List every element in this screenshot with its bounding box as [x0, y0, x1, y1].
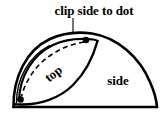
side-panel-label: side — [107, 73, 129, 88]
lower-left-dot-icon — [17, 96, 24, 103]
apex-dot-icon — [83, 37, 90, 44]
diagram-canvas: clip side to dot top side — [0, 0, 164, 122]
caption-label: clip side to dot — [55, 3, 135, 18]
top-panel-label: top — [41, 62, 64, 85]
dome-pattern-diagram: clip side to dot top side — [0, 0, 164, 122]
